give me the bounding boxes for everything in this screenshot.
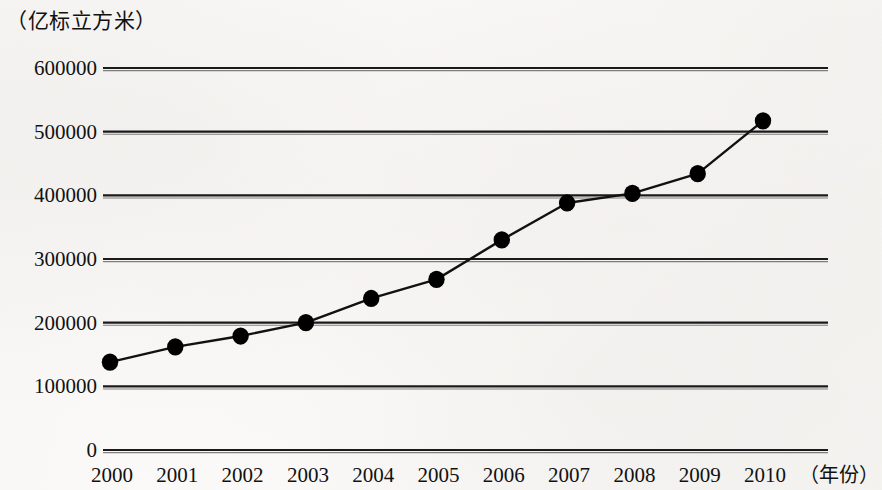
x-axis-tick-label: 2004 (352, 465, 394, 486)
x-axis-tick-label: 2001 (156, 465, 198, 486)
data-point-marker (102, 354, 118, 371)
data-point-marker (755, 112, 771, 129)
gridline (103, 386, 828, 389)
data-point-marker (298, 314, 314, 331)
data-point-marker (690, 165, 706, 182)
data-point-marker (494, 231, 510, 248)
data-point-marker (232, 327, 248, 344)
x-axis-tick-label: 2000 (91, 465, 133, 486)
gridline (103, 450, 828, 453)
data-line (110, 121, 763, 362)
data-point-marker (624, 185, 640, 202)
x-axis-tick-label: 2003 (287, 465, 329, 486)
data-point-marker (167, 338, 183, 355)
gridline (103, 323, 828, 326)
y-axis-tick-label: 400000 (0, 185, 97, 206)
data-point-marker (363, 290, 379, 307)
x-axis-tick-label: 2006 (483, 465, 525, 486)
y-axis-tick-label: 500000 (0, 121, 97, 142)
x-axis-tick-label: 2009 (679, 465, 721, 486)
y-axis-tick-label: 200000 (0, 312, 97, 333)
gridline (103, 68, 828, 71)
line-chart-plot (0, 0, 882, 490)
y-axis-tick-label: 300000 (0, 249, 97, 270)
chart-container: （亿标立方米） 60000050000040000030000020000010… (0, 0, 882, 490)
x-axis-tick-label: 2002 (222, 465, 264, 486)
x-axis-tick-label: 2008 (613, 465, 655, 486)
x-axis-tick-label: 2010 (744, 465, 786, 486)
y-axis-tick-label: 0 (0, 440, 97, 461)
data-point-marker (428, 271, 444, 288)
x-axis-tick-label: 2005 (418, 465, 460, 486)
y-axis-tick-label: 100000 (0, 376, 97, 397)
x-axis-tick-label: 2007 (548, 465, 590, 486)
y-axis-tick-label: 600000 (0, 58, 97, 79)
gridline (103, 195, 828, 198)
gridline (103, 132, 828, 135)
data-point-marker (559, 194, 575, 211)
x-axis-title: （年份） (799, 465, 879, 486)
